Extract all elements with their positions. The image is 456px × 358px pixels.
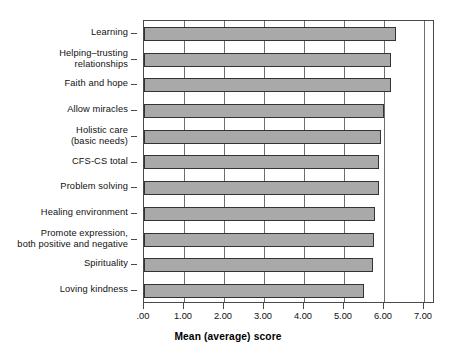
- y-axis-label: Allow miracles: [67, 104, 128, 115]
- y-axis-label-line: Healing environment: [41, 207, 128, 218]
- y-axis-tick: [131, 59, 137, 60]
- y-axis-label-line: Helping–trusting: [59, 47, 128, 58]
- y-axis-label: Healing environment: [41, 207, 128, 218]
- x-axis-tick: [303, 303, 304, 309]
- x-axis-tick: [183, 303, 184, 309]
- y-axis-label-line: CFS-CS total: [72, 156, 128, 167]
- bar: [144, 53, 391, 67]
- y-axis-label-line: both positive and negative: [17, 239, 128, 250]
- x-axis-tick-labels: .001.002.003.004.005.006.007.00: [0, 310, 456, 324]
- bar: [144, 207, 375, 221]
- bar-row: [144, 72, 433, 98]
- y-axis-tick: [131, 239, 137, 240]
- y-axis-tick: [131, 213, 137, 214]
- y-axis-tick: [131, 162, 137, 163]
- y-axis-tick: [131, 84, 137, 85]
- x-axis-tick-label: 4.00: [294, 310, 312, 322]
- y-axis-tick: [131, 264, 137, 265]
- x-axis-tick-label: 6.00: [374, 310, 392, 322]
- y-axis-label-line: Promote expression,: [17, 227, 128, 238]
- x-axis-tick: [223, 303, 224, 309]
- bar-chart-figure: LearningHelping–trustingrelationshipsFai…: [0, 0, 456, 358]
- y-axis-label: Spirituality: [84, 259, 128, 270]
- y-axis-tick: [131, 290, 137, 291]
- bar: [144, 27, 396, 41]
- y-axis-label-line: Learning: [91, 27, 128, 38]
- bar-row: [144, 124, 433, 150]
- y-axis-tick: [131, 110, 137, 111]
- y-axis-label: Loving kindness: [60, 285, 128, 296]
- y-axis-label-line: Allow miracles: [67, 104, 128, 115]
- x-axis-tick: [263, 303, 264, 309]
- plot-area: [143, 20, 434, 303]
- bar-series: [144, 21, 433, 302]
- y-axis-tick: [131, 136, 137, 137]
- bar-row: [144, 278, 433, 304]
- y-axis-label: Faith and hope: [65, 79, 128, 90]
- x-axis-tick: [383, 303, 384, 309]
- bar-row: [144, 201, 433, 227]
- y-axis-label: Promote expression,both positive and neg…: [17, 227, 128, 249]
- bar-row: [144, 175, 433, 201]
- bar: [144, 78, 391, 92]
- x-axis-tick-label: 3.00: [254, 310, 272, 322]
- y-axis-label: Problem solving: [60, 182, 128, 193]
- y-axis-label: CFS-CS total: [72, 156, 128, 167]
- x-axis-tick: [423, 303, 424, 309]
- y-axis-label-line: Faith and hope: [65, 79, 128, 90]
- bar-row: [144, 21, 433, 47]
- bar: [144, 284, 364, 298]
- bar: [144, 130, 381, 144]
- x-axis-title: Mean (average) score: [0, 331, 456, 342]
- y-axis-labels: LearningHelping–trustingrelationshipsFai…: [0, 20, 137, 303]
- y-axis-label-line: (basic needs): [71, 136, 128, 147]
- y-axis-tick: [131, 187, 137, 188]
- y-axis-label: Learning: [91, 27, 128, 38]
- x-axis-tick-label: 5.00: [334, 310, 352, 322]
- x-axis-tick-label: 2.00: [214, 310, 232, 322]
- bar-row: [144, 253, 433, 279]
- y-axis-label-line: Holistic care: [71, 125, 128, 136]
- bar: [144, 155, 379, 169]
- y-axis-label-line: Problem solving: [60, 182, 128, 193]
- y-axis-tick: [131, 33, 137, 34]
- y-axis-label: Holistic care(basic needs): [71, 125, 128, 147]
- y-axis-label-line: relationships: [59, 59, 128, 70]
- y-axis-label: Helping–trustingrelationships: [59, 47, 128, 69]
- y-axis-label-line: Loving kindness: [60, 285, 128, 296]
- x-axis-tick: [143, 303, 144, 309]
- bar: [144, 104, 384, 118]
- bar: [144, 181, 379, 195]
- bar-row: [144, 98, 433, 124]
- y-axis-label-line: Spirituality: [84, 259, 128, 270]
- x-axis-tick: [343, 303, 344, 309]
- bar: [144, 233, 374, 247]
- x-axis-tick-label: .00: [137, 310, 150, 322]
- bar-row: [144, 150, 433, 176]
- bar-row: [144, 47, 433, 73]
- bar: [144, 258, 373, 272]
- x-axis-ticks: [143, 303, 435, 309]
- x-axis-tick-label: 7.00: [414, 310, 432, 322]
- x-axis-tick-label: 1.00: [174, 310, 192, 322]
- bar-row: [144, 227, 433, 253]
